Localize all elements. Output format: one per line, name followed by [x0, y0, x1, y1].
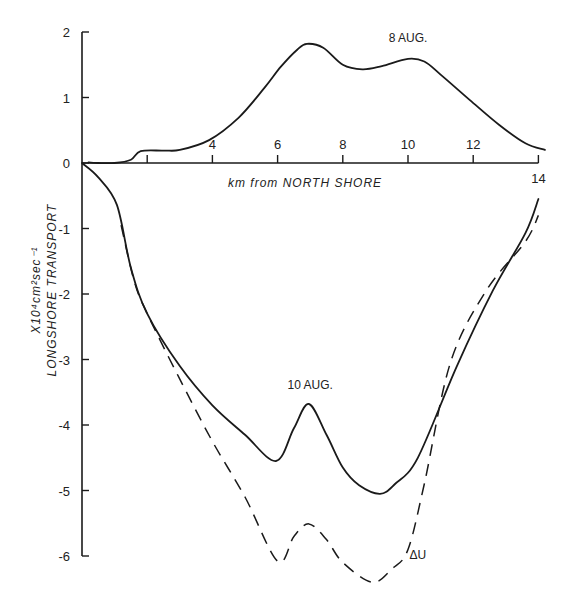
- axes: [82, 32, 538, 556]
- y-tick-label: -3: [58, 353, 70, 368]
- y-tick-label: 2: [63, 25, 70, 40]
- series-annotations: 8 AUG.10 AUG.ΔU: [288, 31, 428, 562]
- tick-marks: 210-1-2-3-4-5-6468101214: [58, 25, 545, 564]
- y-tick-label: -2: [58, 287, 70, 302]
- series-annotation: 8 AUG.: [389, 31, 428, 45]
- y-tick-label: -5: [58, 484, 70, 499]
- y-tick-label: -1: [58, 222, 70, 237]
- data-series: [82, 44, 545, 583]
- y-tick-label: -6: [58, 549, 70, 564]
- series-line-10-aug: [82, 163, 538, 494]
- y-tick-label: 1: [63, 91, 70, 106]
- series-line-u: [121, 215, 538, 582]
- x-tick-label: 6: [274, 137, 281, 152]
- y-axis-title: LONGSHORE TRANSPORT: [45, 203, 59, 376]
- longshore-transport-chart: 210-1-2-3-4-5-6468101214 km from NORTH S…: [0, 0, 571, 589]
- x-tick-label: 10: [401, 137, 415, 152]
- x-tick-label: 14: [531, 171, 545, 186]
- series-annotation: ΔU: [409, 548, 426, 562]
- series-annotation: 10 AUG.: [288, 378, 333, 392]
- y-axis-units: X10⁴cm²sec⁻¹: [29, 246, 43, 334]
- x-tick-label: 12: [466, 137, 480, 152]
- x-axis-title: km from NORTH SHORE: [228, 176, 382, 190]
- x-tick-label: 8: [339, 137, 346, 152]
- y-tick-label: 0: [63, 156, 70, 171]
- y-tick-label: -4: [58, 418, 70, 433]
